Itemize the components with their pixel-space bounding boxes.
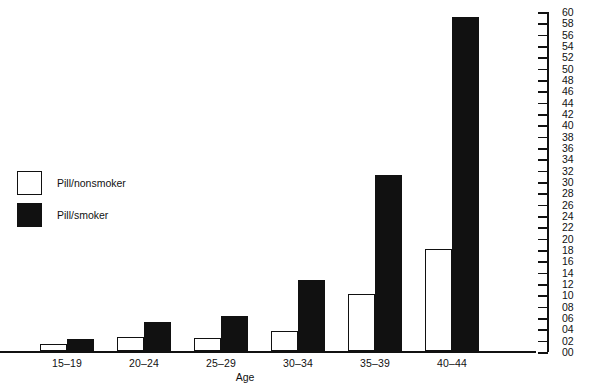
y-tick-label: 46 [562, 86, 574, 96]
bar-nonsmoker [425, 249, 452, 351]
y-tick [538, 137, 548, 139]
y-tick-label: 08 [562, 302, 574, 312]
y-tick [538, 103, 548, 105]
y-tick-label: 16 [562, 256, 574, 266]
y-tick [538, 182, 548, 184]
y-tick [538, 114, 548, 116]
y-tick-label: 42 [562, 109, 574, 119]
legend-swatch-nonsmoker [17, 171, 42, 195]
y-tick-label: 24 [562, 211, 574, 221]
bar-smoker [298, 280, 325, 351]
legend: Pill/nonsmoker Pill/smoker [17, 171, 187, 235]
y-tick [538, 318, 548, 320]
y-tick-label: 00 [562, 347, 574, 357]
y-tick [538, 273, 548, 275]
x-tick-label: 40–44 [412, 357, 492, 369]
y-tick-label: 32 [562, 166, 574, 176]
bar-smoker [67, 339, 94, 351]
y-tick-label: 38 [562, 132, 574, 142]
y-tick-label: 04 [562, 324, 574, 334]
y-tick-label: 52 [562, 52, 574, 62]
bar-nonsmoker [117, 337, 144, 351]
y-tick-label: 22 [562, 222, 574, 232]
y-tick [538, 352, 548, 354]
y-tick [538, 23, 548, 25]
bar-nonsmoker [271, 331, 298, 351]
legend-item-smoker: Pill/smoker [17, 203, 187, 235]
y-tick [538, 227, 548, 229]
legend-label-smoker: Pill/smoker [57, 209, 108, 221]
bar-smoker [221, 316, 248, 351]
y-tick [538, 341, 548, 343]
y-tick [538, 295, 548, 297]
y-tick [538, 216, 548, 218]
y-tick-label: 40 [562, 120, 574, 130]
x-tick-label: 15–19 [27, 357, 107, 369]
y-tick [538, 159, 548, 161]
x-tick-label: 20–24 [104, 357, 184, 369]
y-tick [538, 12, 548, 14]
bar-nonsmoker [194, 338, 221, 351]
y-tick-label: 28 [562, 188, 574, 198]
y-tick-label: 14 [562, 268, 574, 278]
legend-item-nonsmoker: Pill/nonsmoker [17, 171, 187, 203]
y-tick-label: 36 [562, 143, 574, 153]
bar-smoker [452, 17, 479, 351]
bar-nonsmoker [348, 294, 375, 351]
y-tick [538, 125, 548, 127]
y-tick [538, 329, 548, 331]
y-tick-label: 56 [562, 30, 574, 40]
y-tick [538, 307, 548, 309]
x-axis-line [0, 351, 536, 353]
y-tick-label: 34 [562, 154, 574, 164]
y-tick [538, 148, 548, 150]
x-tick-label: 30–34 [258, 357, 338, 369]
y-tick [538, 91, 548, 93]
y-tick-label: 02 [562, 336, 574, 346]
y-tick [538, 80, 548, 82]
y-tick-label: 60 [562, 7, 574, 17]
y-tick-label: 10 [562, 290, 574, 300]
y-tick [538, 239, 548, 241]
x-tick-label: 25–29 [181, 357, 261, 369]
bar-smoker [375, 175, 402, 351]
x-axis-title: Age [205, 371, 285, 383]
y-tick [538, 250, 548, 252]
y-tick-label: 26 [562, 200, 574, 210]
y-tick-label: 20 [562, 234, 574, 244]
y-tick [538, 171, 548, 173]
y-tick [538, 69, 548, 71]
bar-chart: 15–1920–2425–2930–3435–3940–44 Age 60585… [0, 0, 595, 389]
bar-nonsmoker [40, 344, 67, 351]
x-tick-label: 35–39 [335, 357, 415, 369]
y-tick [538, 193, 548, 195]
y-tick [538, 57, 548, 59]
y-tick [538, 46, 548, 48]
y-tick [538, 261, 548, 263]
y-tick-label: 06 [562, 313, 574, 323]
y-tick-label: 50 [562, 64, 574, 74]
y-tick-label: 18 [562, 245, 574, 255]
y-tick-label: 44 [562, 98, 574, 108]
y-tick-label: 54 [562, 41, 574, 51]
legend-swatch-smoker [17, 203, 42, 227]
y-tick [538, 205, 548, 207]
legend-label-nonsmoker: Pill/nonsmoker [57, 177, 126, 189]
y-tick-label: 30 [562, 177, 574, 187]
y-tick-label: 48 [562, 75, 574, 85]
y-tick-label: 58 [562, 18, 574, 28]
y-tick-label: 12 [562, 279, 574, 289]
y-tick [538, 284, 548, 286]
y-tick [538, 35, 548, 37]
bar-smoker [144, 322, 171, 351]
